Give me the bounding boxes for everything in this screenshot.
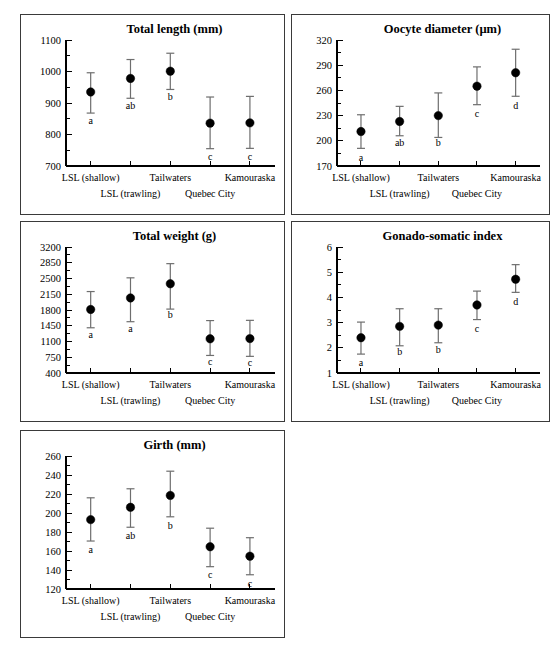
x-category-label: Tailwaters (418, 379, 460, 390)
y-tick-label: 260 (45, 451, 61, 462)
chart-total-weight: Total weight (g)400750110014501800215025… (40, 229, 276, 407)
significance-letter: a (359, 152, 364, 163)
chart-gonado-somatic-index: Gonado-somatic index123456abbcdLSL (shal… (327, 229, 542, 407)
data-point[interactable] (473, 82, 481, 90)
x-group-label: Quebec City (185, 611, 235, 622)
figure-container: Total length (mm)70080090010001100aabbcc… (0, 0, 557, 653)
significance-letter: a (359, 357, 364, 368)
y-tick-label: 1000 (40, 66, 61, 77)
significance-letter: b (436, 137, 441, 148)
x-category-label: Kamouraska (225, 595, 276, 606)
x-category-label: Kamouraska (490, 172, 541, 183)
y-tick-label: 3200 (40, 242, 61, 253)
significance-letter: b (168, 520, 173, 531)
chart-oocyte-diameter: Oocyte diameter (µm)170200230260290320aa… (316, 22, 541, 200)
y-tick-label: 700 (45, 161, 61, 172)
data-point[interactable] (511, 69, 519, 77)
data-point[interactable] (246, 552, 254, 560)
y-tick-label: 200 (316, 135, 332, 146)
y-tick-label: 220 (45, 489, 61, 500)
x-category-label: LSL (shallow) (62, 595, 120, 607)
y-tick-label: 2500 (40, 273, 61, 284)
significance-letter: c (475, 108, 480, 119)
x-category-label: Tailwaters (150, 595, 192, 606)
significance-letter: ab (126, 100, 135, 111)
y-tick-label: 900 (45, 98, 61, 109)
significance-letter: a (128, 323, 133, 334)
data-point[interactable] (246, 334, 254, 342)
significance-letter: c (248, 357, 253, 368)
chart-girth: Girth (mm)120140160180200220240260aabbcc… (45, 438, 275, 623)
data-point[interactable] (434, 111, 442, 119)
significance-letter: c (248, 578, 253, 589)
y-tick-label: 4 (327, 292, 333, 303)
significance-letter: c (248, 151, 253, 162)
x-group-label: LSL (trawling) (370, 188, 430, 200)
y-tick-label: 2150 (40, 289, 61, 300)
significance-letter: d (513, 100, 518, 111)
x-category-label: LSL (shallow) (62, 379, 120, 391)
panel-title-girth: Girth (mm) (143, 438, 205, 452)
significance-letter: a (88, 329, 93, 340)
data-point[interactable] (434, 321, 442, 329)
data-point[interactable] (126, 503, 134, 511)
y-tick-label: 1100 (40, 336, 61, 347)
data-point[interactable] (126, 74, 134, 82)
data-point[interactable] (166, 280, 174, 288)
x-category-label: Kamouraska (225, 172, 276, 183)
data-point[interactable] (86, 515, 94, 523)
significance-letter: b (436, 344, 441, 355)
y-tick-label: 140 (45, 565, 61, 576)
y-tick-label: 1 (327, 368, 332, 379)
data-point[interactable] (166, 491, 174, 499)
data-point[interactable] (246, 119, 254, 127)
y-tick-label: 320 (316, 35, 332, 46)
x-group-label: Quebec City (452, 395, 502, 406)
data-point[interactable] (126, 294, 134, 302)
data-point[interactable] (395, 117, 403, 125)
x-category-label: Tailwaters (150, 379, 192, 390)
y-tick-label: 6 (327, 242, 332, 253)
panel-title-total-weight: Total weight (g) (133, 229, 217, 243)
data-point[interactable] (511, 275, 519, 283)
y-tick-label: 2 (327, 342, 332, 353)
panel-title-oocyte-diameter: Oocyte diameter (µm) (384, 22, 501, 36)
significance-letter: ab (126, 530, 135, 541)
panel-title-total-length: Total length (mm) (126, 22, 222, 36)
data-point[interactable] (206, 119, 214, 127)
y-tick-label: 5 (327, 267, 332, 278)
y-tick-label: 3 (327, 317, 332, 328)
y-tick-label: 160 (45, 546, 61, 557)
x-category-label: Tailwaters (418, 172, 460, 183)
significance-letter: c (208, 151, 213, 162)
data-point[interactable] (395, 322, 403, 330)
x-group-label: LSL (trawling) (101, 611, 161, 623)
y-tick-label: 120 (45, 584, 61, 595)
data-point[interactable] (166, 67, 174, 75)
y-tick-label: 240 (45, 470, 61, 481)
y-tick-label: 1800 (40, 305, 61, 316)
y-tick-label: 1100 (40, 35, 61, 46)
y-tick-label: 170 (316, 161, 332, 172)
data-point[interactable] (357, 127, 365, 135)
significance-letter: c (208, 356, 213, 367)
data-point[interactable] (206, 335, 214, 343)
data-point[interactable] (86, 305, 94, 313)
data-point[interactable] (206, 543, 214, 551)
data-point[interactable] (357, 334, 365, 342)
x-group-label: Quebec City (185, 395, 235, 406)
x-category-label: LSL (shallow) (332, 172, 390, 184)
y-tick-label: 400 (45, 368, 61, 379)
plot-layer: Total length (mm)70080090010001100aabbcc… (0, 0, 557, 653)
significance-letter: b (168, 309, 173, 320)
x-category-label: LSL (shallow) (62, 172, 120, 184)
significance-letter: d (513, 296, 518, 307)
data-point[interactable] (86, 88, 94, 96)
significance-letter: a (88, 544, 93, 555)
y-tick-label: 800 (45, 129, 61, 140)
significance-letter: b (168, 91, 173, 102)
panel-title-gonado-somatic-index: Gonado-somatic index (383, 229, 504, 243)
data-point[interactable] (473, 301, 481, 309)
significance-letter: ab (395, 137, 404, 148)
significance-letter: c (208, 569, 213, 580)
